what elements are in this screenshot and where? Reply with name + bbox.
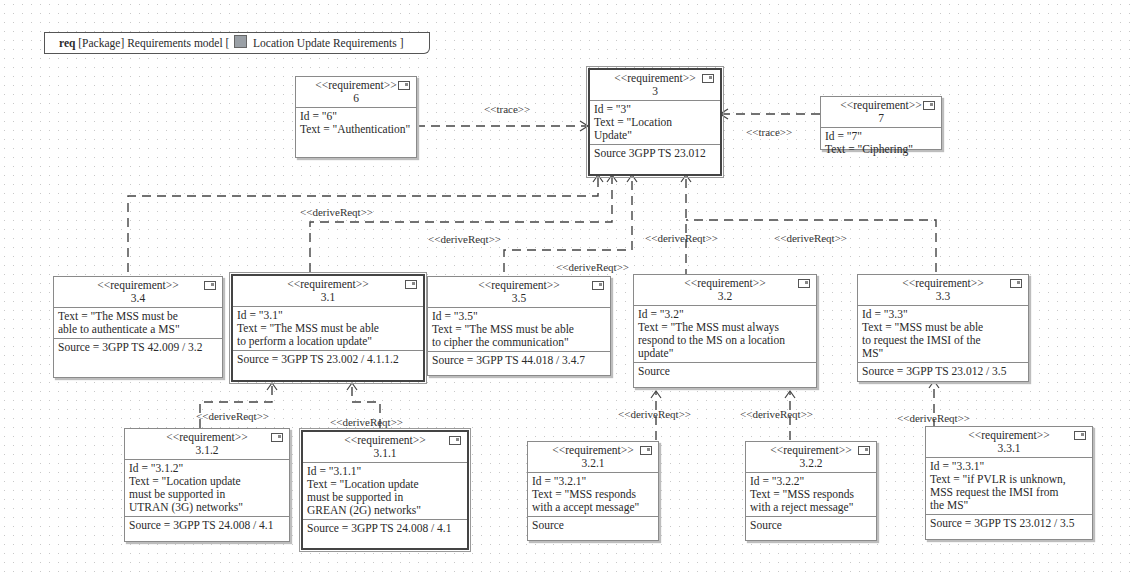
requirement-name: 3.4	[58, 292, 218, 305]
trace-label-7-3: <<trace>>	[746, 126, 792, 138]
derive-line-3.3	[686, 220, 936, 272]
requirement-3.3.1[interactable]: <<requirement>> 3.3.1 Id = "3.3.1" Text …	[925, 426, 1093, 540]
property-text: Text = "The MSS must be	[58, 310, 218, 323]
requirement-header: <<requirement>> 3	[590, 70, 720, 101]
requirement-name: 6	[300, 92, 412, 105]
property-text: Text = "Location update	[307, 478, 463, 491]
property-text: Text = "Location update	[129, 475, 285, 488]
requirement-header: <<requirement>> 3.1	[233, 276, 423, 307]
property-id: Id = "3.2.2"	[750, 475, 872, 488]
property-text-cont: respond to the MS on a location	[638, 334, 812, 347]
requirement-header: <<requirement>> 6	[296, 77, 416, 108]
derive-label-3.2: <<deriveReqt>>	[645, 232, 718, 244]
requirement-properties: Id = "3.5" Text = "The MSS must be able …	[428, 308, 610, 352]
requirement-properties: Id = "7" Text = "Ciphering"	[821, 128, 941, 158]
property-text-cont: to cipher the communication"	[432, 336, 606, 349]
requirement-name: 3	[594, 85, 716, 98]
property-text-cont: Update"	[594, 129, 716, 142]
requirement-icon	[798, 279, 810, 288]
requirement-icon	[858, 446, 870, 455]
stereotype: <<requirement>>	[532, 444, 654, 457]
requirement-header: <<requirement>> 7	[821, 97, 941, 128]
property-text-cont: update"	[638, 347, 812, 360]
requirement-source: Source 3GPP TS 23.012	[590, 145, 720, 162]
property-id: Id = "3.1.2"	[129, 462, 285, 475]
property-text: Text = "MSS responds	[532, 488, 654, 501]
property-text: Text = "MSS must be able	[862, 321, 1024, 334]
requirement-icon	[640, 446, 652, 455]
requirement-properties: Id = "3.2.2" Text = "MSS responds with a…	[746, 473, 876, 517]
property-text: Text = "if PVLR is unknown,	[930, 473, 1088, 486]
requirement-name: 3.2.1	[532, 457, 654, 470]
requirement-source: Source = 3GPP TS 44.018 / 3.4.7	[428, 352, 610, 369]
requirement-properties: Id = "3.1" Text = "The MSS must be able …	[233, 307, 423, 351]
derive-line-3.1	[310, 176, 612, 272]
requirement-header: <<requirement>> 3.4	[54, 277, 222, 308]
requirement-properties: Id = "3.3" Text = "MSS must be able to r…	[858, 306, 1028, 363]
derive-label-3.1.1: <<deriveReqt>>	[330, 416, 403, 428]
requirement-properties: Text = "The MSS must be able to authenti…	[54, 308, 222, 339]
derive-label-3.4: <<deriveReqt>>	[556, 261, 629, 273]
stereotype: <<requirement>>	[307, 434, 463, 447]
property-text: Text = "Location	[594, 116, 716, 129]
derive-label-3.3: <<deriveReqt>>	[774, 232, 847, 244]
requirement-6[interactable]: <<requirement>> 6 Id = "6" Text = "Authe…	[295, 76, 417, 158]
stereotype: <<requirement>>	[237, 278, 419, 291]
requirement-properties: Id = "3.2.1" Text = "MSS responds with a…	[528, 473, 658, 517]
requirement-properties: Id = "3" Text = "Location Update"	[590, 101, 720, 145]
requirement-7[interactable]: <<requirement>> 7 Id = "7" Text = "Ciphe…	[820, 96, 942, 150]
property-text-cont: to request the IMSI of the	[862, 334, 1024, 347]
requirement-3.4[interactable]: <<requirement>> 3.4 Text = "The MSS must…	[53, 276, 223, 378]
requirement-name: 3.2.2	[750, 457, 872, 470]
requirement-icon	[204, 281, 216, 290]
derive-label-3.1.2: <<deriveReqt>>	[196, 410, 269, 422]
trace-label-6-3: <<trace>>	[484, 103, 530, 115]
requirement-icon	[923, 101, 935, 110]
property-id: Id = "3.5"	[432, 310, 606, 323]
requirement-3.2[interactable]: <<requirement>> 3.2 Id = "3.2" Text = "T…	[633, 274, 817, 388]
derive-label-3.2.2: <<deriveReqt>>	[740, 408, 813, 420]
requirement-3.2.1[interactable]: <<requirement>> 3.2.1 Id = "3.2.1" Text …	[527, 441, 659, 541]
requirement-3.5[interactable]: <<requirement>> 3.5 Id = "3.5" Text = "T…	[427, 276, 611, 376]
derive-label-3.1: <<deriveReqt>>	[300, 206, 373, 218]
requirement-source: Source = 3GPP TS 42.009 / 3.2	[54, 339, 222, 356]
requirement-3.1.1[interactable]: <<requirement>> 3.1.1 Id = "3.1.1" Text …	[301, 430, 469, 550]
requirement-properties: Id = "3.1.2" Text = "Location update mus…	[125, 460, 289, 517]
property-text-cont: must be supported in	[129, 488, 285, 501]
property-text-cont: to perform a location update"	[237, 335, 419, 348]
requirement-icon	[1010, 279, 1022, 288]
property-text-cont: must be supported in	[307, 491, 463, 504]
property-text-cont: with a reject message"	[750, 501, 872, 514]
property-id: Id = "3.1"	[237, 309, 419, 322]
property-id: Id = "3.3.1"	[930, 460, 1088, 473]
requirement-header: <<requirement>> 3.3.1	[926, 427, 1092, 458]
requirement-icon	[449, 436, 461, 445]
derive-label-3.2.1: <<deriveReqt>>	[618, 408, 691, 420]
requirement-icon	[398, 81, 410, 90]
property-text-cont: the MS"	[930, 499, 1088, 512]
requirement-icon	[405, 280, 417, 289]
requirement-header: <<requirement>> 3.1.2	[125, 429, 289, 460]
requirement-name: 3.3	[862, 290, 1024, 303]
stereotype: <<requirement>>	[300, 79, 412, 92]
requirement-3.2.2[interactable]: <<requirement>> 3.2.2 Id = "3.2.2" Text …	[745, 441, 877, 541]
requirement-header: <<requirement>> 3.3	[858, 275, 1028, 306]
property-text-cont: MSS request the IMSI from	[930, 486, 1088, 499]
requirement-3[interactable]: <<requirement>> 3 Id = "3" Text = "Locat…	[588, 68, 722, 176]
stereotype: <<requirement>>	[594, 72, 716, 85]
property-id: Id = "3.2.1"	[532, 475, 654, 488]
property-text-cont: MS"	[862, 347, 1024, 360]
stereotype: <<requirement>>	[862, 277, 1024, 290]
property-id: Id = "3"	[594, 103, 716, 116]
requirement-3.1.2[interactable]: <<requirement>> 3.1.2 Id = "3.1.2" Text …	[124, 428, 290, 542]
derive-line-3.4	[128, 176, 598, 272]
requirement-3.3[interactable]: <<requirement>> 3.3 Id = "3.3" Text = "M…	[857, 274, 1029, 382]
requirement-name: 3.1.1	[307, 447, 463, 460]
stereotype: <<requirement>>	[432, 279, 606, 292]
requirement-3.1[interactable]: <<requirement>> 3.1 Id = "3.1" Text = "T…	[231, 274, 425, 382]
requirement-name: 3.5	[432, 292, 606, 305]
stereotype: <<requirement>>	[58, 279, 218, 292]
derive-line-3.5	[504, 176, 632, 272]
requirement-properties: Id = "3.2" Text = "The MSS must always r…	[634, 306, 816, 363]
requirement-icon	[702, 74, 714, 83]
